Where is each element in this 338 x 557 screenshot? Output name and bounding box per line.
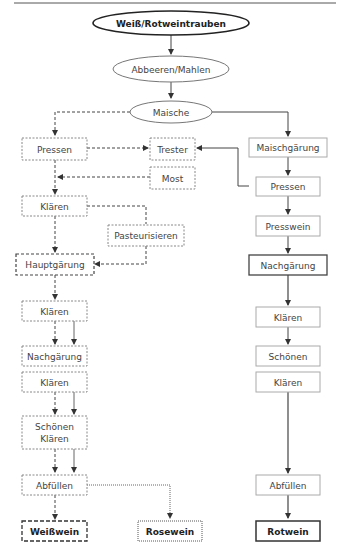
- red-abfuellen-box: Abfüllen: [256, 475, 320, 495]
- white-klaeren3-box: Klären: [22, 372, 87, 392]
- abbeeren-label: Abbeeren/Mahlen: [131, 65, 210, 75]
- red-schoenen-box: Schönen: [256, 346, 320, 366]
- red-klaeren1-label: Klären: [274, 313, 303, 323]
- maische-label: Maische: [153, 108, 190, 118]
- red-nachgaerung-box: Nachgärung: [249, 255, 327, 275]
- maischgaerung-label: Maischgärung: [256, 143, 319, 153]
- white-klaeren1-label: Klären: [40, 202, 69, 212]
- most-box: Most: [150, 167, 195, 189]
- red-schoenen-label: Schönen: [269, 352, 308, 362]
- hauptgaerung-label: Hauptgärung: [25, 260, 84, 270]
- white-abfuellen-label: Abfüllen: [36, 481, 73, 491]
- white-schoenen-box: Schönen Klären: [22, 416, 87, 449]
- white-klaeren2-box: Klären: [22, 301, 87, 321]
- white-klaeren1-box: Klären: [22, 196, 87, 216]
- start-label: Weiß/Rotweintrauben: [116, 19, 226, 29]
- red-nachgaerung-label: Nachgärung: [261, 261, 316, 271]
- maischgaerung-box: Maischgärung: [249, 138, 327, 157]
- red-pressen-label: Pressen: [271, 182, 306, 192]
- hauptgaerung-box: Hauptgärung: [16, 254, 94, 275]
- most-label: Most: [162, 174, 184, 184]
- oval-start: Weiß/Rotweintrauben: [93, 11, 249, 35]
- oval-abbeeren: Abbeeren/Mahlen: [113, 56, 229, 82]
- rosewein-label: Rosewein: [146, 527, 195, 537]
- weisswein-box: Weißwein: [22, 521, 87, 541]
- wine-process-diagram: Weiß/Rotweintrauben Abbeeren/Mahlen Mais…: [0, 0, 338, 557]
- white-nachgaerung-label: Nachgärung: [27, 352, 82, 362]
- oval-maische: Maische: [130, 101, 212, 123]
- red-klaeren2-box: Klären: [256, 372, 320, 392]
- white-nachgaerung-box: Nachgärung: [22, 346, 87, 366]
- pasteurisieren-label: Pasteurisieren: [114, 231, 178, 241]
- trester-label: Trester: [156, 145, 188, 155]
- rosewein-box: Rosewein: [138, 521, 202, 541]
- rotwein-label: Rotwein: [267, 527, 308, 537]
- red-pressen-box: Pressen: [256, 177, 320, 196]
- red-abfuellen-label: Abfüllen: [270, 481, 307, 491]
- rotwein-box: Rotwein: [256, 521, 320, 541]
- presswein-box: Presswein: [256, 216, 320, 236]
- white-schoenen-label: Schönen: [35, 422, 74, 432]
- pasteurisieren-box: Pasteurisieren: [108, 225, 184, 246]
- presswein-label: Presswein: [266, 222, 311, 232]
- white-klaeren2-label: Klären: [40, 307, 69, 317]
- weisswein-label: Weißwein: [30, 527, 79, 537]
- white-pressen-label: Pressen: [37, 145, 72, 155]
- white-schoenen-klaeren-label: Klären: [40, 434, 69, 444]
- white-pressen-box: Pressen: [22, 138, 87, 160]
- white-abfuellen-box: Abfüllen: [22, 475, 87, 495]
- red-klaeren2-label: Klären: [274, 378, 303, 388]
- white-klaeren3-label: Klären: [40, 378, 69, 388]
- red-klaeren1-box: Klären: [256, 307, 320, 327]
- trester-box: Trester: [150, 138, 195, 160]
